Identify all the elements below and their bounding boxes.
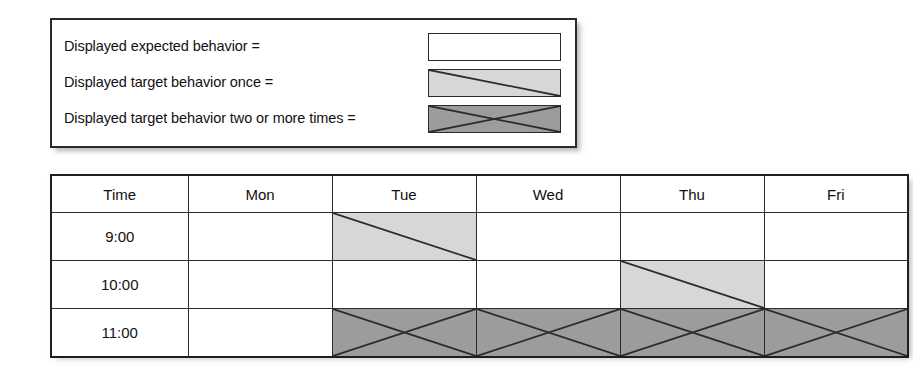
time-label-text: 10:00 <box>101 276 139 293</box>
time-label-text: 9:00 <box>105 228 134 245</box>
schedule-cell-wed-11[interactable] <box>476 309 620 358</box>
row-time-label: 10:00 <box>51 261 188 309</box>
table-row: 10:00 <box>51 261 908 309</box>
legend-swatch-slot <box>428 69 561 97</box>
legend-swatch-slot <box>428 105 561 133</box>
schedule-cell-fri-11[interactable] <box>764 309 908 358</box>
cell-fill-empty <box>189 261 332 308</box>
schedule-cell-tue-9[interactable] <box>332 213 476 261</box>
schedule-cell-fri-10[interactable] <box>764 261 908 309</box>
schedule-cell-tue-11[interactable] <box>332 309 476 358</box>
cell-fill-empty <box>189 213 332 260</box>
cell-fill-empty <box>477 261 620 308</box>
cell-fill-empty <box>189 309 332 356</box>
schedule-header-row: Time Mon Tue Wed Thu Fri <box>51 175 908 213</box>
light-gray-diagonal-swatch <box>428 69 561 97</box>
cell-fill-cross <box>333 309 476 356</box>
schedule-cell-wed-9[interactable] <box>476 213 620 261</box>
cell-fill-cross <box>477 309 620 356</box>
cell-fill-diagonal <box>333 213 476 260</box>
schedule-cell-thu-9[interactable] <box>620 213 764 261</box>
empty-white-swatch <box>428 33 561 61</box>
cell-fill-cross <box>765 309 908 356</box>
column-header-wed: Wed <box>476 175 620 213</box>
legend-item-target-twice-or-more: Displayed target behavior two or more ti… <box>64 101 561 137</box>
legend-item-target-once: Displayed target behavior once = <box>64 65 561 101</box>
dark-gray-cross-swatch <box>428 105 561 133</box>
schedule-cell-thu-11[interactable] <box>620 309 764 358</box>
schedule-table-head: Time Mon Tue Wed Thu Fri <box>51 175 908 213</box>
schedule-table-container: Time Mon Tue Wed Thu Fri 9:00 <box>50 174 907 354</box>
legend-panel: Displayed expected behavior = Displayed … <box>50 18 577 148</box>
legend-item-label: Displayed target behavior once = <box>64 75 273 91</box>
column-header-time: Time <box>51 175 188 213</box>
column-header-thu: Thu <box>620 175 764 213</box>
row-time-label: 11:00 <box>51 309 188 358</box>
column-header-tue: Tue <box>332 175 476 213</box>
time-label-text: 11:00 <box>102 324 138 341</box>
cell-fill-empty <box>333 261 476 308</box>
cell-fill-empty <box>477 213 620 260</box>
cell-fill-diagonal <box>621 261 764 308</box>
cell-fill-empty <box>765 261 908 308</box>
schedule-cell-fri-9[interactable] <box>764 213 908 261</box>
schedule-cell-mon-11[interactable] <box>188 309 332 358</box>
legend-swatch-slot <box>428 33 561 61</box>
schedule-cell-thu-10[interactable] <box>620 261 764 309</box>
schedule-cell-mon-9[interactable] <box>188 213 332 261</box>
cell-fill-empty <box>621 213 764 260</box>
schedule-cell-tue-10[interactable] <box>332 261 476 309</box>
legend-item-label: Displayed expected behavior = <box>64 39 260 55</box>
schedule-table: Time Mon Tue Wed Thu Fri 9:00 <box>50 174 909 358</box>
table-row: 9:00 <box>51 213 908 261</box>
row-time-label: 9:00 <box>51 213 188 261</box>
cell-fill-empty <box>765 213 908 260</box>
schedule-cell-mon-10[interactable] <box>188 261 332 309</box>
column-header-fri: Fri <box>764 175 908 213</box>
schedule-cell-wed-10[interactable] <box>476 261 620 309</box>
cell-fill-cross <box>621 309 764 356</box>
legend-item-expected: Displayed expected behavior = <box>64 29 561 65</box>
schedule-table-body: 9:00 10:00 11:00 <box>51 213 908 358</box>
column-header-mon: Mon <box>188 175 332 213</box>
legend-item-label: Displayed target behavior two or more ti… <box>64 111 356 127</box>
table-row: 11:00 <box>51 309 908 358</box>
legend-row-list: Displayed expected behavior = Displayed … <box>52 20 575 146</box>
